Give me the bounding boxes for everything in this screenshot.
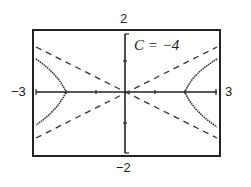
ticks	[36, 34, 216, 153]
plot-area	[0, 0, 251, 187]
c-annotation: C = −4	[134, 37, 179, 54]
right-branch	[185, 59, 217, 127]
